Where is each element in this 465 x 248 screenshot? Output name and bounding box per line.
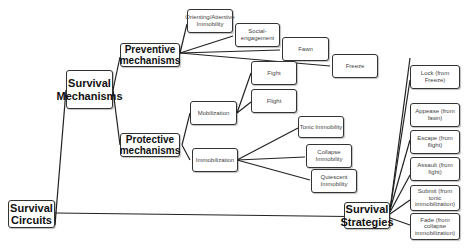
node-appease: Appease (from fawn) — [410, 103, 460, 127]
node-collapse-immobility: Collapse Immobility — [306, 144, 352, 168]
node-survival-mechanisms: Survival Mechanisms — [66, 70, 113, 109]
node-assault: Assault (from fight) — [410, 157, 460, 181]
node-protective-mechanisms: Protective mechanisms — [120, 133, 180, 157]
node-freeze: Freeze — [332, 54, 378, 78]
node-survival-strategies: Survival Strategies — [344, 202, 390, 229]
node-submit: Submit (from tonic immobilization) — [410, 185, 460, 211]
node-escape: Escape (from flight) — [410, 130, 460, 154]
node-flight: Flight — [251, 89, 297, 113]
node-preventive-mechanisms: Preventive mechanisms — [120, 43, 180, 67]
node-mobilization: Mobilization — [190, 101, 237, 125]
node-quiescent-immobility: Quiescent Immobility — [311, 169, 357, 193]
node-fade: Fade (from collapse immobilization) — [410, 213, 460, 240]
node-orienting-immobility: Orienting/Attentive Immobility — [187, 9, 233, 33]
node-survival-circuits: Survival Circuits — [8, 200, 55, 228]
node-fawn: Fawn — [282, 37, 329, 61]
node-fight: Fight — [251, 61, 297, 85]
node-tonic-immobility: Tonic Immobility — [298, 116, 344, 138]
node-social-engagement: Social-engagement — [235, 23, 280, 47]
node-lock-box: Lock (from Freeze) — [410, 65, 460, 89]
node-immobilization: Immobilization — [192, 148, 238, 172]
